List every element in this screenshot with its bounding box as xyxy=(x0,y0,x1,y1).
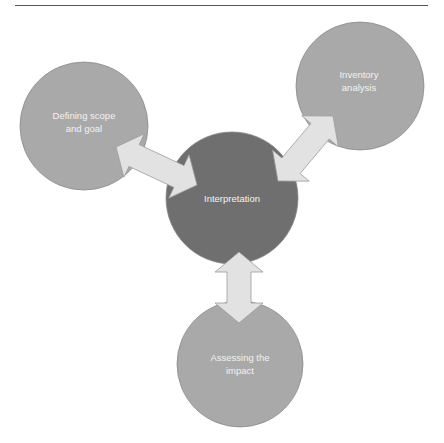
double-arrow-inventory-interpretation xyxy=(273,116,339,181)
diagram-canvas xyxy=(0,0,444,443)
center-circle-interpretation xyxy=(166,132,298,264)
double-arrow-scope-interpretation xyxy=(116,134,197,198)
node-circle-scope xyxy=(20,62,148,190)
